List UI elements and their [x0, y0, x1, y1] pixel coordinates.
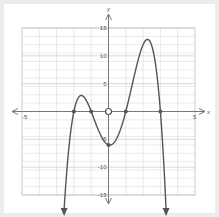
function-graph: xy-5515105-5-10-15	[0, 0, 219, 217]
y-tick-label: 10	[100, 53, 107, 59]
x-intercept-point	[124, 110, 128, 114]
left-end-arrow-icon	[61, 208, 68, 216]
curve-path	[64, 39, 166, 209]
x-intercept-point	[89, 110, 93, 114]
y-tick-label: 15	[100, 25, 107, 31]
x-tick-label: 5	[193, 114, 197, 120]
x-intercept-point	[72, 110, 76, 114]
y-tick-label: -15	[98, 192, 107, 198]
y-axis-label: y	[106, 6, 111, 12]
x-tick-label: -5	[22, 114, 28, 120]
intercept-points	[72, 109, 162, 147]
polynomial-curve	[61, 39, 170, 215]
right-end-arrow-icon	[163, 208, 170, 216]
y-intercept-point	[107, 143, 111, 147]
tick-labels: xy-5515105-5-10-15	[22, 6, 211, 198]
x-intercept-point	[158, 110, 162, 114]
origin-open-circle	[106, 109, 112, 115]
y-tick-label: -10	[98, 164, 107, 170]
x-axis-label: x	[206, 109, 211, 115]
